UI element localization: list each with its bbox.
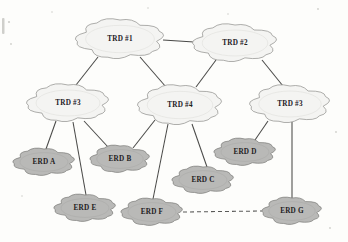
node-label-trd4: TRD #4 <box>167 101 193 109</box>
link-trd1-trd4 <box>140 57 166 87</box>
node-trd3r[interactable]: TRD #3 <box>249 85 329 123</box>
link-trd4-erdf <box>153 124 168 199</box>
link-trd3l-erde <box>73 122 86 195</box>
node-erdd[interactable]: ERD D <box>214 138 276 165</box>
link-trd3l-erdb <box>84 121 108 147</box>
network-diagram-canvas: TRD #1TRD #2TRD #3TRD #4TRD #3ERD AERD B… <box>0 0 348 242</box>
node-label-erdb: ERD B <box>109 155 132 163</box>
node-label-trd1: TRD #1 <box>107 35 133 43</box>
link-trd4-erdb <box>133 120 155 148</box>
node-label-erdd: ERD D <box>233 148 256 156</box>
node-label-erdf: ERD F <box>141 208 164 216</box>
link-trd3l-erda <box>46 121 56 149</box>
node-clouds: TRD #1TRD #2TRD #3TRD #4TRD #3ERD AERD B… <box>13 19 330 226</box>
node-label-trd3l: TRD #3 <box>55 99 81 107</box>
node-trd4[interactable]: TRD #4 <box>137 85 221 125</box>
link-trd1-trd3l <box>76 57 98 85</box>
node-erda[interactable]: ERD A <box>13 148 75 175</box>
node-erdc[interactable]: ERD C <box>172 166 234 193</box>
node-erdf[interactable]: ERD F <box>121 198 183 225</box>
link-trd2-trd4 <box>196 60 216 87</box>
link-trd1-trd2 <box>163 40 194 42</box>
connection-lines <box>46 40 292 212</box>
link-trd4-erdc <box>192 124 207 167</box>
link-trd2-trd3r <box>262 60 283 86</box>
node-label-erdg: ERD G <box>280 207 304 215</box>
link-trd3r-erdd <box>255 121 268 140</box>
node-erdb[interactable]: ERD B <box>90 145 150 172</box>
link-erdf-erdg <box>183 211 262 212</box>
node-label-erdc: ERD C <box>191 176 214 184</box>
network-diagram: TRD #1TRD #2TRD #3TRD #4TRD #3ERD AERD B… <box>0 0 348 242</box>
node-label-erde: ERD E <box>74 204 97 212</box>
node-label-erda: ERD A <box>33 158 56 166</box>
node-trd3l[interactable]: TRD #3 <box>26 84 108 122</box>
node-label-trd3r: TRD #3 <box>277 100 303 108</box>
node-label-trd2: TRD #2 <box>222 39 248 47</box>
node-trd1[interactable]: TRD #1 <box>75 19 163 59</box>
node-erdg[interactable]: ERD G <box>262 197 322 224</box>
node-trd2[interactable]: TRD #2 <box>192 24 276 62</box>
node-erde[interactable]: ERD E <box>54 194 116 221</box>
